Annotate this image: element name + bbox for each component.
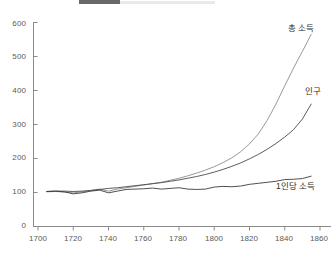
series-label-population: 인구 bbox=[305, 86, 321, 96]
x-tick-label-1820: 1820 bbox=[234, 234, 264, 243]
series-label-total-income: 총 소득 bbox=[288, 23, 314, 33]
x-tick-label-1720: 1720 bbox=[58, 234, 88, 243]
series-label-per-capita-income: 1인당 소득 bbox=[276, 181, 315, 191]
y-tick-label-400: 400 bbox=[2, 86, 26, 95]
y-tick-marks bbox=[34, 23, 38, 227]
x-tick-label-1780: 1780 bbox=[163, 234, 193, 243]
y-tick-label-100: 100 bbox=[2, 187, 26, 196]
x-tick-label-1700: 1700 bbox=[23, 234, 53, 243]
y-tick-label-0: 0 bbox=[2, 221, 26, 230]
x-tick-label-1860: 1860 bbox=[304, 234, 334, 243]
line-chart: 0 100 200 300 400 500 600 1700 1720 1740… bbox=[0, 0, 335, 254]
y-tick-label-500: 500 bbox=[2, 52, 26, 61]
plot-area bbox=[0, 0, 335, 254]
x-tick-label-1740: 1740 bbox=[93, 234, 123, 243]
y-tick-label-200: 200 bbox=[2, 153, 26, 162]
x-tick-label-1840: 1840 bbox=[269, 234, 299, 243]
y-tick-label-600: 600 bbox=[2, 19, 26, 28]
series-line-0 bbox=[47, 34, 311, 192]
y-tick-label-300: 300 bbox=[2, 120, 26, 129]
axes bbox=[34, 22, 332, 231]
x-tick-marks bbox=[38, 227, 320, 231]
x-tick-label-1800: 1800 bbox=[199, 234, 229, 243]
x-tick-label-1760: 1760 bbox=[128, 234, 158, 243]
series-lines bbox=[47, 34, 311, 193]
